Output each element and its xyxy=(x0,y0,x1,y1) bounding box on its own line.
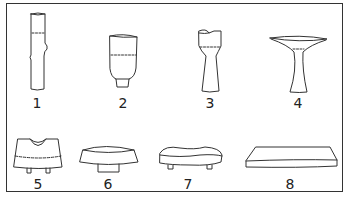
object-4-drawing xyxy=(270,36,327,92)
object-8-drawing xyxy=(246,147,337,167)
label-5: 5 xyxy=(34,177,43,191)
label-6: 6 xyxy=(104,177,113,191)
label-8: 8 xyxy=(286,177,295,191)
object-3-drawing xyxy=(199,30,221,92)
object-6-drawing xyxy=(80,147,138,173)
label-1: 1 xyxy=(33,96,42,110)
object-1-drawing xyxy=(30,13,47,90)
label-4: 4 xyxy=(294,96,303,110)
label-7: 7 xyxy=(184,177,193,191)
object-5-drawing xyxy=(14,139,62,173)
object-2-drawing xyxy=(110,35,137,87)
label-3: 3 xyxy=(206,96,215,110)
label-2: 2 xyxy=(119,96,128,110)
object-7-drawing xyxy=(160,147,222,169)
